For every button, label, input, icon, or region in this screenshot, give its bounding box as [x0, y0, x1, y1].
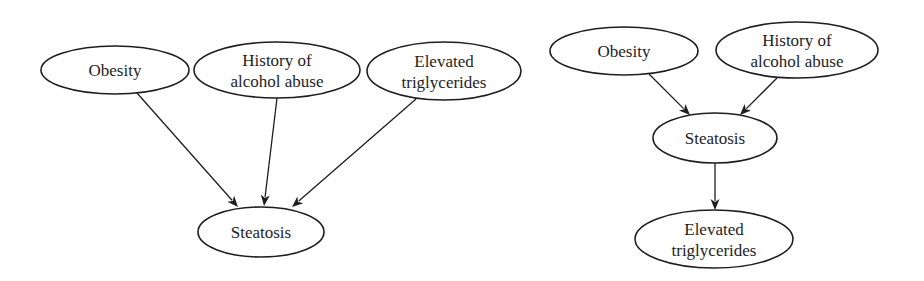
- edge-alcohol-to-steatosis: [740, 78, 777, 115]
- node-label: alcohol abuse: [751, 52, 844, 71]
- edge-steatosis-to-triglycerides: [711, 163, 720, 210]
- node-triglycerides: Elevatedtriglycerides: [635, 210, 793, 268]
- edge-obesity-to-steatosis: [649, 74, 690, 115]
- edge-line: [649, 74, 684, 109]
- node-label: Steatosis: [685, 129, 745, 148]
- edge-line: [137, 93, 232, 200]
- node-label: Elevated: [684, 220, 744, 239]
- node-obesity: Obesity: [550, 27, 698, 75]
- nodes-layer: ObesityHistory ofalcohol abuseElevatedtr…: [41, 22, 878, 268]
- node-label: Obesity: [89, 61, 142, 80]
- node-steatosis: Steatosis: [198, 207, 324, 257]
- edge-alcohol-to-steatosis: [261, 98, 277, 206]
- node-label: Steatosis: [231, 223, 291, 242]
- right-graph-nodes: ObesityHistory ofalcohol abuseSteatosisE…: [550, 22, 878, 268]
- node-triglycerides: Elevatedtriglycerides: [367, 42, 521, 100]
- causal-diagrams: ObesityHistory ofalcohol abuseElevatedtr…: [0, 0, 924, 281]
- left-graph-nodes: ObesityHistory ofalcohol abuseElevatedtr…: [41, 42, 521, 257]
- left-graph-edges: [137, 93, 416, 207]
- edge-obesity-to-steatosis: [137, 93, 238, 207]
- edge-line: [299, 99, 416, 201]
- node-label: triglycerides: [672, 241, 757, 260]
- node-label: History of: [762, 31, 832, 50]
- node-label: History of: [242, 51, 312, 70]
- edge-line: [265, 98, 277, 197]
- node-alcohol: History ofalcohol abuse: [194, 42, 360, 98]
- node-label: triglycerides: [402, 73, 487, 92]
- edge-line: [746, 78, 777, 109]
- node-alcohol: History ofalcohol abuse: [716, 22, 878, 78]
- edge-triglycerides-to-steatosis: [292, 99, 416, 207]
- node-label: alcohol abuse: [231, 72, 324, 91]
- node-steatosis: Steatosis: [653, 113, 777, 163]
- node-obesity: Obesity: [41, 46, 189, 94]
- node-label: Obesity: [598, 42, 651, 61]
- node-label: Elevated: [414, 52, 474, 71]
